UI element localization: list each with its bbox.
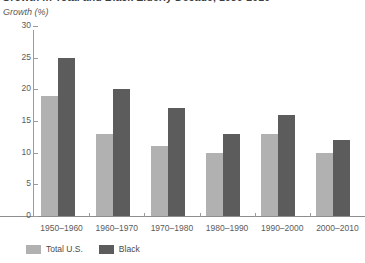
x-axis-separator-tick [310, 213, 311, 217]
x-axis-separator-tick [200, 213, 201, 217]
chart-legend: Total U.S.Black [26, 244, 149, 255]
bar-group [96, 26, 130, 216]
y-axis-tick-label: 5 [26, 178, 31, 189]
bar-black[interactable] [333, 140, 350, 216]
legend-item-label: Total U.S. [46, 244, 83, 255]
y-axis-tick-label: 25 [22, 52, 31, 63]
x-axis-labels: 1950–19601960–19701970–19801980–19901990… [34, 223, 365, 235]
bar-group [316, 26, 350, 216]
bar-black[interactable] [113, 89, 130, 216]
bar-total-us[interactable] [96, 134, 113, 216]
bar-total-us[interactable] [151, 146, 168, 216]
x-axis-separator-tick [255, 213, 256, 217]
x-axis-tick-label: 1970–1980 [144, 223, 199, 234]
bar-group [41, 26, 75, 216]
bar-total-us[interactable] [316, 153, 333, 216]
bar-black[interactable] [223, 134, 240, 216]
y-axis-tick: 15 [0, 121, 38, 122]
bar-total-us[interactable] [41, 96, 58, 216]
legend-swatch-total-us [26, 245, 41, 254]
y-axis-tick-label: 20 [22, 83, 31, 94]
x-axis-tick-label: 2000–2010 [310, 223, 365, 234]
y-axis-tick: 25 [0, 58, 38, 59]
y-axis-tick: 30 [0, 26, 38, 27]
y-axis-tick: 10 [0, 153, 38, 154]
legend-item[interactable]: Total U.S. [26, 244, 83, 255]
bar-total-us[interactable] [261, 134, 278, 216]
page-title: Growth in Total and Black Elderly Decade… [2, 0, 302, 4]
x-axis-tick-label: 1990–2000 [255, 223, 310, 234]
y-axis-tick-label: 10 [22, 147, 31, 158]
y-axis-tick: 20 [0, 89, 38, 90]
plot-area: 051015202530 [0, 26, 365, 222]
x-axis-separator-tick [144, 213, 145, 217]
bar-total-us[interactable] [206, 153, 223, 216]
bar-group [206, 26, 240, 216]
legend-item-label: Black [119, 244, 140, 255]
chart-title-clipped: Growth in Total and Black Elderly Decade… [2, 0, 302, 4]
bar-black[interactable] [278, 115, 295, 216]
x-axis-tick-label: 1960–1970 [89, 223, 144, 234]
bar-black[interactable] [58, 58, 75, 216]
legend-item[interactable]: Black [99, 244, 140, 255]
x-axis-tick-label: 1950–1960 [34, 223, 89, 234]
y-axis-tick-label: 30 [22, 20, 31, 31]
x-axis-separator-tick [89, 213, 90, 217]
bar-group [261, 26, 295, 216]
y-axis-tick-label: 0 [26, 210, 31, 221]
bar-black[interactable] [168, 108, 185, 216]
bars-layer [34, 26, 365, 217]
legend-swatch-black [99, 245, 114, 254]
bar-group [151, 26, 185, 216]
y-axis-tick-label: 15 [22, 115, 31, 126]
x-axis-tick-label: 1980–1990 [200, 223, 255, 234]
chart-subtitle: Growth (%) [3, 7, 49, 18]
y-axis-tick: 5 [0, 184, 38, 185]
y-axis-tick: 0 [0, 216, 38, 217]
